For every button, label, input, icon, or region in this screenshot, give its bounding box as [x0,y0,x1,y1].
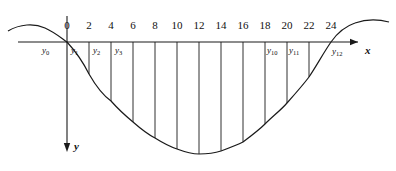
ordinate-label-y1: y1 [71,46,78,55]
tick-label-20: 20 [282,20,293,31]
ordinate-label-y11: y11 [289,46,299,55]
tick-label-16: 16 [238,20,249,31]
y-axis-name-label: y [74,141,79,152]
tick-label-0: 0 [64,20,70,31]
ordinate-lines [89,42,309,154]
ordinate-label-y10-sub: 10 [271,49,278,56]
tick-label-14: 14 [216,20,227,31]
function-curve [8,20,389,154]
tick-label-6: 6 [130,20,136,31]
ordinate-label-y12: y12 [332,47,343,56]
ordinate-label-y2-sub: 2 [97,49,100,56]
tick-label-8: 8 [152,20,158,31]
ordinate-label-y12-sub: 12 [336,50,343,57]
x-axis-arrowhead [350,39,358,45]
x-axis-name-label: x [365,45,371,56]
ordinate-label-y3-sub: 3 [119,49,122,56]
ordinate-area-diagram: 0 2 4 6 8 10 12 14 16 18 20 22 24 y0 y1 … [0,0,396,171]
tick-label-12: 12 [194,20,205,31]
tick-label-18: 18 [260,20,271,31]
y-axis [64,16,70,152]
tick-label-4: 4 [108,20,114,31]
ordinate-label-y3: y3 [115,46,122,55]
ordinate-label-y0: y0 [42,46,49,55]
ordinate-label-y1-sub: 1 [75,49,78,56]
ordinate-label-y2: y2 [93,46,100,55]
y-axis-arrowhead [64,143,70,152]
tick-label-10: 10 [172,20,183,31]
tick-label-2: 2 [86,20,92,31]
ordinate-label-y0-sub: 0 [46,49,49,56]
ordinate-label-y11-sub: 11 [293,49,299,56]
tick-label-24: 24 [326,20,337,31]
ordinate-label-y10: y10 [267,46,278,55]
tick-label-22: 22 [304,20,315,31]
